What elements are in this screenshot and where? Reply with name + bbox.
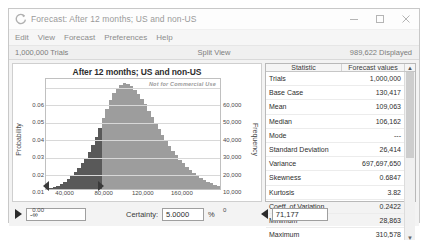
table-row[interactable]: Trials1,000,000 (266, 72, 404, 86)
y-tick-label: 0.00 (32, 207, 44, 213)
stat-name: Standard Deviation (266, 146, 339, 153)
y-axis-ticks: 0.060.050.040.030.020.010.00 (23, 78, 45, 201)
stat-value: 26,414 (339, 146, 404, 153)
stat-value: 697,697,650 (339, 160, 404, 167)
maximize-icon[interactable] (367, 9, 393, 29)
stat-value: 130,417 (339, 89, 404, 96)
stat-name: Trials (266, 75, 339, 82)
menu-item-preferences[interactable]: Preferences (104, 33, 147, 42)
title-bar: Forecast: After 12 months; US and non-US (9, 9, 419, 30)
view-mode-label: Split View (198, 48, 231, 57)
plot-area-wrapper: Probability 0.060.050.040.030.020.010.00… (13, 78, 261, 201)
stat-name: Median (266, 118, 339, 125)
trials-count: 1,000,000 Trials (15, 48, 68, 57)
triangle-left-icon[interactable] (261, 209, 268, 219)
gridline (46, 88, 220, 89)
forecast-window: Forecast: After 12 months; US and non-US… (8, 8, 420, 223)
stat-value: --- (339, 132, 404, 139)
y2-tick-label: 30,000 (223, 154, 241, 160)
displayed-count: 989,622 Displayed (350, 48, 412, 57)
stat-value: 0.6847 (339, 174, 404, 181)
column-header-statistic: Statistic (266, 64, 342, 71)
status-bar: 1,000,000 Trials Split View 989,622 Disp… (9, 45, 419, 60)
x-tick-label: 40,000 (55, 190, 73, 196)
histogram-plot[interactable]: Not for Commercial Use (45, 78, 221, 190)
stat-name: Kurtosis (266, 189, 339, 196)
table-scrollbar[interactable]: ▼ (404, 72, 415, 234)
triangle-right-icon[interactable] (15, 209, 22, 219)
y-tick-label: 0.06 (32, 102, 44, 108)
stat-name: Mean (266, 103, 339, 110)
y-axis-label: Probability (13, 78, 23, 201)
upper-grabber-handle[interactable] (98, 181, 104, 191)
y2-tick-label: 20,000 (223, 172, 241, 178)
table-row[interactable]: Median106,162 (266, 115, 404, 129)
stat-name: Base Case (266, 89, 339, 96)
menu-item-forecast[interactable]: Forecast (64, 33, 95, 42)
table-row[interactable]: Mode--- (266, 129, 404, 143)
y-tick-label: 0.05 (32, 119, 44, 125)
y2-tick-label: 40,000 (223, 137, 241, 143)
stat-value: 1,000,000 (339, 75, 404, 82)
window-title: Forecast: After 12 months; US and non-US (31, 14, 197, 24)
stat-value: 109,063 (339, 103, 404, 110)
table-row[interactable]: Mean109,063 (266, 100, 404, 114)
x-axis-ticks: 40,00080,000120,000160,000 (45, 190, 221, 200)
table-row[interactable]: Kurtosis3.82 (266, 186, 404, 200)
stat-value: 106,162 (339, 118, 404, 125)
table-row[interactable]: Standard Deviation26,414 (266, 143, 404, 157)
stat-name: Skewness (266, 174, 339, 181)
x-tick-label: 160,000 (171, 190, 193, 196)
forecast-chart[interactable]: After 12 months; US and non-US Probabili… (12, 63, 262, 202)
chart-title: After 12 months; US and non-US (13, 64, 261, 78)
stat-value: 3.82 (339, 189, 404, 196)
lower-grabber-handle[interactable] (43, 181, 49, 191)
stat-name: Maximum (266, 231, 339, 234)
y2-tick-label: 10,000 (223, 189, 241, 195)
gridline (46, 105, 220, 106)
gridline (46, 123, 220, 124)
y2-axis-label: Frequency (251, 78, 261, 201)
y2-axis-ticks: 60,00050,00040,00030,00020,00010,0000 (221, 78, 251, 201)
scrollbar-thumb[interactable] (406, 72, 414, 158)
stat-name: Mode (266, 132, 339, 139)
stat-name: Variance (266, 160, 339, 167)
histogram-bars (46, 79, 220, 189)
close-icon[interactable] (393, 9, 419, 29)
y2-tick-label: 60,000 (223, 102, 241, 108)
minimize-icon[interactable] (341, 9, 367, 29)
certainty-input[interactable]: 5.0000 (162, 208, 204, 221)
x-tick-label: 120,000 (132, 190, 154, 196)
y2-tick-label: 50,000 (223, 119, 241, 125)
y2-tick-label: 0 (223, 207, 226, 213)
stat-value: 0.2422 (339, 203, 404, 210)
table-row[interactable]: Skewness0.6847 (266, 171, 404, 185)
table-row[interactable]: Variance697,697,650 (266, 157, 404, 171)
certainty-label: Certainty: (126, 210, 158, 219)
y-tick-label: 0.02 (32, 172, 44, 178)
window-controls (341, 9, 419, 29)
upper-bound-input[interactable]: 71,177 (272, 208, 328, 221)
gridline (46, 158, 220, 159)
menu-bar: Edit View Forecast Preferences Help (9, 30, 419, 45)
y-tick-label: 0.03 (32, 154, 44, 160)
menu-item-view[interactable]: View (38, 33, 55, 42)
column-header-forecast-values: Forecast values (342, 64, 405, 71)
histogram-bar (217, 186, 220, 189)
percent-label: % (208, 210, 215, 219)
y-tick-label: 0.04 (32, 137, 44, 143)
table-row[interactable]: Maximum310,578 (266, 228, 404, 234)
crystal-ball-icon (14, 13, 27, 26)
main-content: After 12 months; US and non-US Probabili… (9, 60, 419, 202)
gridline (46, 175, 220, 176)
menu-item-edit[interactable]: Edit (15, 33, 29, 42)
statistics-table[interactable]: Statistic Forecast values ▲ Trials1,000,… (265, 63, 416, 202)
chevron-up-icon[interactable]: ▲ (405, 64, 415, 71)
stat-value: 310,578 (339, 231, 404, 234)
table-header-row: Statistic Forecast values ▲ (266, 64, 415, 72)
table-row[interactable]: Base Case130,417 (266, 86, 404, 100)
stat-value: 28,863 (339, 217, 404, 224)
menu-item-help[interactable]: Help (156, 33, 172, 42)
gridline (46, 140, 220, 141)
